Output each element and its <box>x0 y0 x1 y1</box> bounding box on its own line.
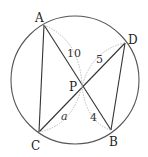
label-length-AP: 10 <box>67 47 81 60</box>
label-point-D: D <box>128 33 138 47</box>
segment-AC <box>39 25 44 132</box>
label-point-A: A <box>34 11 44 25</box>
label-length-PB: 4 <box>90 111 97 124</box>
circle-chords-diagram: A D P C B 10 5 4 a <box>0 0 148 157</box>
label-length-PC: a <box>61 110 68 123</box>
label-point-B: B <box>109 135 118 149</box>
chord-AB <box>44 25 111 130</box>
label-point-P: P <box>69 80 77 94</box>
label-length-PD: 5 <box>96 53 103 66</box>
label-point-C: C <box>31 139 40 153</box>
